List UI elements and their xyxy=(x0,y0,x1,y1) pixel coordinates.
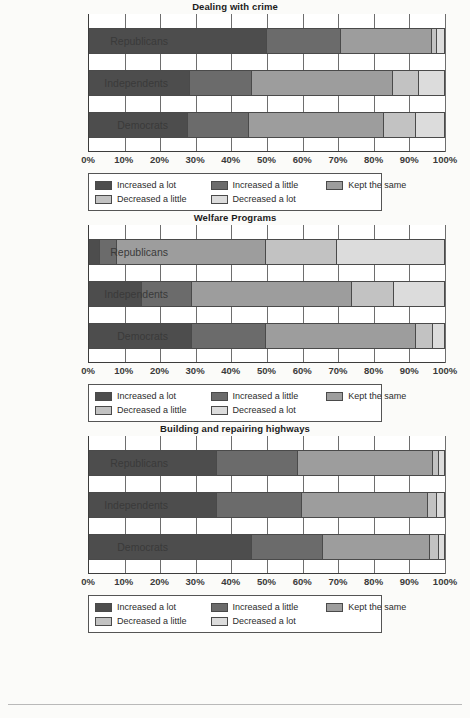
gridline xyxy=(445,14,446,152)
legend-item[interactable]: Decreased a little xyxy=(95,192,211,206)
legend-swatch-icon xyxy=(95,617,112,626)
bar-segment[interactable] xyxy=(384,113,416,137)
legend-swatch-icon xyxy=(211,603,228,612)
legend-item[interactable]: Decreased a lot xyxy=(211,403,327,417)
legend-item[interactable]: Increased a little xyxy=(211,178,327,192)
legend-label: Kept the same xyxy=(348,391,406,401)
bar-segment[interactable] xyxy=(393,71,420,95)
bar-segment[interactable] xyxy=(188,113,248,137)
legend-item[interactable]: Decreased a little xyxy=(95,614,211,628)
legend-item[interactable]: Decreased a lot xyxy=(211,192,327,206)
legend-swatch-icon xyxy=(211,195,228,204)
bar-segment[interactable] xyxy=(323,535,430,559)
x-axis-tick-label: 60% xyxy=(293,576,312,587)
plot-area: RepublicansIndependentsDemocrats xyxy=(88,14,445,152)
x-axis-tick-label: 70% xyxy=(328,365,347,376)
x-axis-tick-label: 80% xyxy=(364,576,383,587)
bar-segment[interactable] xyxy=(437,29,444,53)
legend-label: Increased a little xyxy=(233,180,299,190)
plot-area: RepublicansIndependentsDemocrats xyxy=(88,436,445,574)
chart-legend: Increased a lotIncreased a littleKept th… xyxy=(88,595,382,633)
bar-segment[interactable] xyxy=(419,71,444,95)
legend-label: Decreased a lot xyxy=(233,616,296,626)
chart-page: Dealing with crimeRepublicansIndependent… xyxy=(0,0,470,718)
x-axis-tick-label: 0% xyxy=(81,154,95,165)
x-axis-labels: 0%10%20%30%40%50%60%70%80%90%100% xyxy=(88,574,445,592)
bar-segment[interactable] xyxy=(266,324,415,348)
bar-segment[interactable] xyxy=(252,71,392,95)
legend-item[interactable]: Kept the same xyxy=(326,600,377,614)
legend-item[interactable]: Increased a little xyxy=(211,389,327,403)
chart-title: Building and repairing highways xyxy=(0,422,470,436)
bar-segment[interactable] xyxy=(252,535,323,559)
bar-segment[interactable] xyxy=(217,493,302,517)
chart-panel: Building and repairing highwaysRepublica… xyxy=(0,422,470,633)
x-axis-tick-label: 20% xyxy=(150,365,169,376)
bar-segment[interactable] xyxy=(433,324,444,348)
legend-label: Decreased a little xyxy=(117,194,187,204)
bar-segment[interactable] xyxy=(192,324,267,348)
chart-panel: Dealing with crimeRepublicansIndependent… xyxy=(0,0,470,211)
bar-segment[interactable] xyxy=(341,29,432,53)
y-axis-tick-label: Democrats xyxy=(88,112,174,138)
bar-segment[interactable] xyxy=(416,113,444,137)
x-axis-tick-label: 30% xyxy=(186,576,205,587)
bar-segment[interactable] xyxy=(302,493,428,517)
bar-segment[interactable] xyxy=(298,451,433,475)
bar-segment[interactable] xyxy=(192,282,352,306)
y-axis-tick-label: Republicans xyxy=(88,450,174,476)
y-axis-tick-label: Democrats xyxy=(88,323,174,349)
legend-label: Decreased a lot xyxy=(233,405,296,415)
x-axis-tick-label: 90% xyxy=(400,154,419,165)
bar-segment[interactable] xyxy=(439,535,444,559)
legend-swatch-icon xyxy=(95,406,112,415)
bar-segment[interactable] xyxy=(217,451,299,475)
x-axis-tick-label: 20% xyxy=(150,576,169,587)
x-axis-tick-label: 0% xyxy=(81,365,95,376)
gridline xyxy=(445,225,446,363)
bar-segment[interactable] xyxy=(352,282,395,306)
legend-item[interactable]: Decreased a little xyxy=(95,403,211,417)
bar-segment[interactable] xyxy=(337,240,444,264)
legend-label: Decreased a little xyxy=(117,405,187,415)
x-axis-tick-label: 50% xyxy=(257,576,276,587)
x-axis-tick-label: 20% xyxy=(150,154,169,165)
x-axis-tick-label: 80% xyxy=(364,154,383,165)
legend-item[interactable]: Kept the same xyxy=(326,178,377,192)
bar-segment[interactable] xyxy=(190,71,252,95)
bar-segment[interactable] xyxy=(249,113,384,137)
legend-item[interactable]: Increased a lot xyxy=(95,389,211,403)
bar-segment[interactable] xyxy=(428,493,437,517)
x-axis-tick-label: 90% xyxy=(400,365,419,376)
x-axis-tick-label: 90% xyxy=(400,576,419,587)
legend-label: Decreased a little xyxy=(117,616,187,626)
bar-segment[interactable] xyxy=(267,29,342,53)
chart-title: Welfare Programs xyxy=(0,211,470,225)
bar-segment[interactable] xyxy=(439,451,444,475)
bar-segment[interactable] xyxy=(416,324,434,348)
legend-label: Increased a lot xyxy=(117,602,176,612)
x-axis-tick-label: 50% xyxy=(257,365,276,376)
legend-label: Increased a lot xyxy=(117,180,176,190)
y-axis-labels: RepublicansIndependentsDemocrats xyxy=(88,14,174,152)
chart-panel: Welfare ProgramsRepublicansIndependentsD… xyxy=(0,211,470,422)
legend-item[interactable]: Increased a lot xyxy=(95,600,211,614)
bar-segment[interactable] xyxy=(437,493,444,517)
y-axis-tick-label: Republicans xyxy=(88,239,174,265)
x-axis-tick-label: 40% xyxy=(221,365,240,376)
bar-segment[interactable] xyxy=(430,535,439,559)
legend-item[interactable]: Increased a little xyxy=(211,600,327,614)
legend-swatch-icon xyxy=(95,181,112,190)
legend-item[interactable]: Kept the same xyxy=(326,389,377,403)
x-axis-tick-label: 100% xyxy=(433,365,457,376)
legend-item[interactable]: Increased a lot xyxy=(95,178,211,192)
legend-label: Increased a little xyxy=(233,602,299,612)
legend-item[interactable]: Decreased a lot xyxy=(211,614,327,628)
legend-swatch-icon xyxy=(211,181,228,190)
bar-segment[interactable] xyxy=(266,240,337,264)
bar-segment[interactable] xyxy=(394,282,444,306)
legend-label: Kept the same xyxy=(348,602,406,612)
chart-title: Dealing with crime xyxy=(0,0,470,14)
legend-swatch-icon xyxy=(211,617,228,626)
x-axis-tick-label: 30% xyxy=(186,154,205,165)
